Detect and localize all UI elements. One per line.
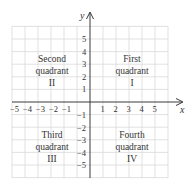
y-tick: −1 bbox=[77, 110, 86, 120]
x-tick: 3 bbox=[127, 104, 131, 114]
x-tick: −3 bbox=[36, 104, 45, 114]
x-tick: −4 bbox=[23, 104, 33, 114]
svg-text:II: II bbox=[49, 78, 55, 88]
y-tick: −3 bbox=[77, 135, 86, 145]
quadrant-first-label: First quadrant I bbox=[115, 54, 149, 88]
svg-text:quadrant: quadrant bbox=[35, 142, 69, 152]
x-tick: −2 bbox=[49, 104, 58, 114]
svg-text:quadrant: quadrant bbox=[115, 142, 149, 152]
x-tick: 1 bbox=[101, 104, 105, 114]
svg-text:I: I bbox=[130, 78, 133, 88]
y-tick: 2 bbox=[82, 72, 86, 82]
svg-text:III: III bbox=[47, 154, 57, 164]
y-axis-label: y bbox=[79, 10, 85, 21]
svg-text:Third: Third bbox=[41, 130, 62, 140]
y-tick: −4 bbox=[77, 148, 87, 158]
x-tick: −1 bbox=[62, 104, 71, 114]
svg-text:Fourth: Fourth bbox=[119, 130, 145, 140]
svg-text:quadrant: quadrant bbox=[115, 66, 149, 76]
y-tick: 3 bbox=[82, 59, 86, 69]
x-tick: −5 bbox=[10, 104, 19, 114]
svg-text:IV: IV bbox=[127, 154, 137, 164]
x-axis-label: x bbox=[179, 104, 185, 115]
coordinate-plane: x y −5 −4 −3 −2 −1 1 2 3 4 5 5 4 3 2 1 −… bbox=[0, 0, 194, 187]
y-tick: −5 bbox=[77, 160, 86, 170]
svg-text:quadrant: quadrant bbox=[35, 66, 69, 76]
y-tick: 1 bbox=[82, 84, 86, 94]
x-tick: 4 bbox=[140, 104, 145, 114]
y-tick: −2 bbox=[77, 123, 86, 133]
svg-text:Second: Second bbox=[38, 54, 66, 64]
quadrant-fourth-label: Fourth quadrant IV bbox=[115, 130, 149, 164]
x-tick: 5 bbox=[153, 104, 157, 114]
svg-text:First: First bbox=[123, 54, 141, 64]
y-tick: 5 bbox=[82, 34, 86, 44]
x-tick: 2 bbox=[114, 104, 118, 114]
